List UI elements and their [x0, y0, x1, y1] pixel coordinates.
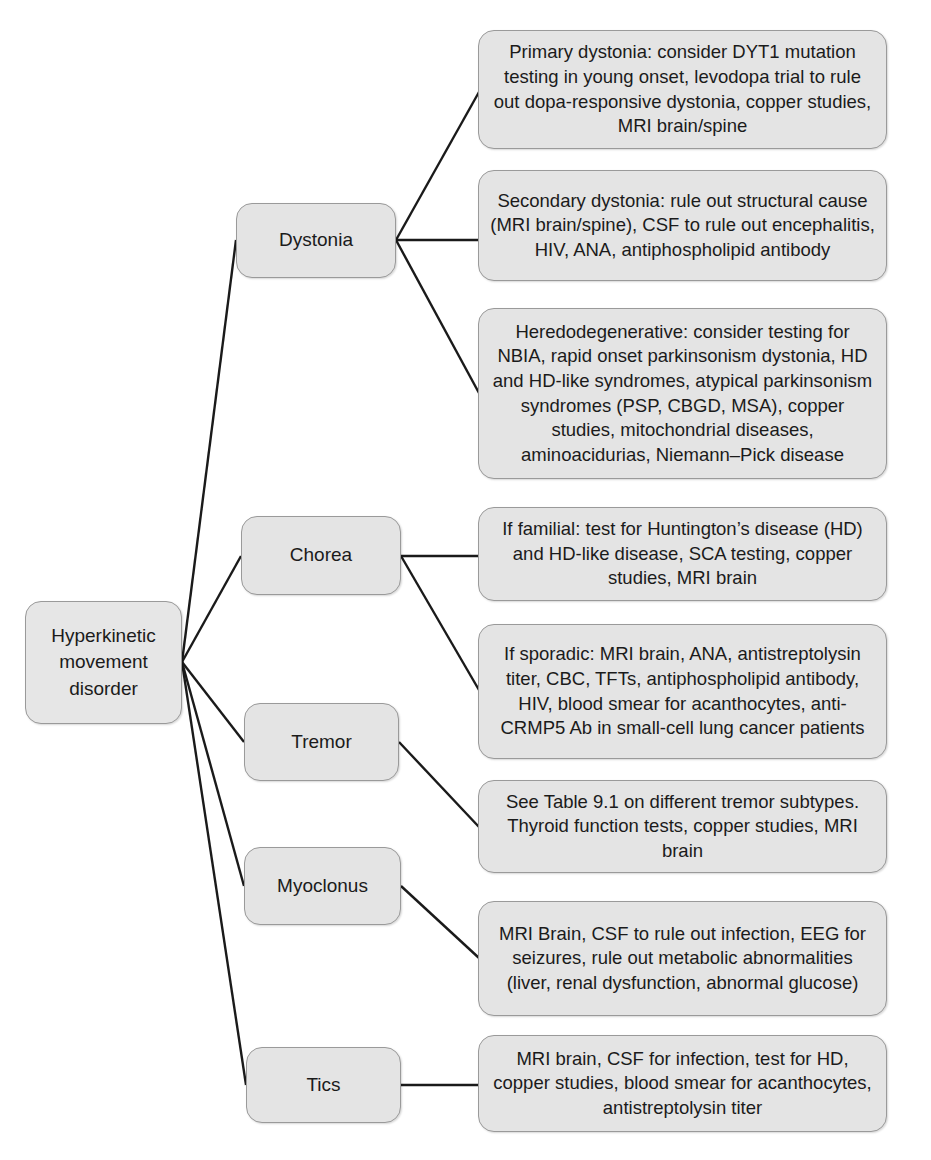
- node-detail-tics-workup: MRI brain, CSF for infection, test for H…: [478, 1035, 887, 1132]
- edge-root-to-myoclonus: [182, 662, 244, 886]
- node-category-myoclonus-label: Myoclonus: [255, 874, 390, 899]
- node-detail-tremor-workup: See Table 9.1 on different tremor subtyp…: [478, 780, 887, 873]
- node-detail-tremor-workup-text: See Table 9.1 on different tremor subtyp…: [489, 790, 876, 864]
- node-category-tremor-label: Tremor: [255, 730, 388, 755]
- node-detail-dystonia-secondary-text: Secondary dystonia: rule out structural …: [489, 189, 876, 263]
- node-category-tics-label: Tics: [257, 1073, 390, 1098]
- node-detail-chorea-familial-text: If familial: test for Huntington’s disea…: [489, 517, 876, 591]
- hyperkinetic-movement-disorder-diagram: Hyperkinetic movement disorder Dystonia …: [0, 0, 931, 1160]
- node-category-dystonia: Dystonia: [236, 203, 396, 278]
- node-detail-dystonia-secondary: Secondary dystonia: rule out structural …: [478, 170, 887, 281]
- node-detail-dystonia-heredodegenerative-text: Heredodegenerative: consider testing for…: [489, 320, 876, 468]
- node-root-label: Hyperkinetic movement disorder: [36, 623, 171, 702]
- edge-dystonia-to-heredodegenerative: [396, 240, 479, 393]
- node-detail-dystonia-primary: Primary dystonia: consider DYT1 mutation…: [478, 30, 887, 149]
- edge-tremor-to-workup: [399, 742, 479, 827]
- edge-root-to-chorea: [182, 556, 241, 662]
- edge-root-to-tremor: [182, 662, 244, 742]
- edge-root-to-tics: [182, 662, 246, 1085]
- edge-dystonia-to-primary: [396, 92, 479, 240]
- edge-chorea-to-sporadic: [401, 556, 479, 690]
- edge-myoclonus-to-workup: [401, 886, 479, 958]
- edge-root-to-dystonia: [182, 240, 236, 662]
- node-category-tics: Tics: [246, 1047, 401, 1123]
- node-detail-dystonia-primary-text: Primary dystonia: consider DYT1 mutation…: [489, 40, 876, 138]
- node-detail-dystonia-heredodegenerative: Heredodegenerative: consider testing for…: [478, 308, 887, 479]
- node-detail-chorea-sporadic-text: If sporadic: MRI brain, ANA, antistrepto…: [489, 642, 876, 740]
- node-detail-myoclonus-workup: MRI Brain, CSF to rule out infection, EE…: [478, 901, 887, 1016]
- node-category-chorea: Chorea: [241, 516, 401, 595]
- node-category-dystonia-label: Dystonia: [247, 228, 385, 253]
- node-category-tremor: Tremor: [244, 703, 399, 781]
- node-category-myoclonus: Myoclonus: [244, 847, 401, 925]
- node-category-chorea-label: Chorea: [252, 543, 390, 568]
- node-detail-tics-workup-text: MRI brain, CSF for infection, test for H…: [489, 1047, 876, 1121]
- node-root-hyperkinetic-movement-disorder: Hyperkinetic movement disorder: [25, 601, 182, 724]
- node-detail-chorea-familial: If familial: test for Huntington’s disea…: [478, 507, 887, 601]
- node-detail-chorea-sporadic: If sporadic: MRI brain, ANA, antistrepto…: [478, 624, 887, 759]
- node-detail-myoclonus-workup-text: MRI Brain, CSF to rule out infection, EE…: [489, 922, 876, 996]
